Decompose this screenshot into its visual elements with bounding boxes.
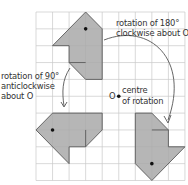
label-rotation-180-line1: rotation of 180° [116, 18, 179, 28]
centre-of-rotation-point [117, 94, 121, 98]
shape-polygon [135, 113, 185, 180]
shape-polygon [53, 12, 103, 79]
shape-marker-dot [84, 27, 88, 31]
label-rotation-90-line1: rotation of 90° [1, 71, 59, 81]
shape-rotated-180 [135, 113, 185, 180]
shape-original [53, 12, 103, 79]
shape-marker-dot [150, 162, 154, 166]
label-rotation-90-line3: about O [1, 91, 33, 101]
shape-rotated-90-anticlockwise [36, 113, 102, 164]
label-centre-line2: of rotation [122, 96, 163, 106]
label-centre-line1: centre [122, 85, 148, 95]
shape-marker-dot [51, 128, 55, 132]
arrowhead-180 [164, 115, 171, 123]
shape-polygon [36, 113, 102, 164]
label-rotation-180-line2: clockwise about O [116, 28, 188, 38]
label-rotation-90-line2: anticlockwise [1, 81, 55, 91]
centre-letter-o: O [109, 91, 115, 101]
arrow-180-clockwise [104, 36, 174, 120]
rotation-diagram: rotation of 180° clockwise about O rotat… [0, 0, 188, 185]
